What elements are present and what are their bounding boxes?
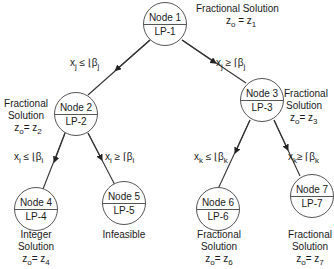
edge-2-4-constraint: xi ≤ ⌊βi — [14, 151, 43, 167]
node-3: Node 3 LP-3 — [240, 78, 284, 122]
node-3-z: zo= z3 — [290, 112, 318, 128]
node-divider — [291, 196, 333, 197]
node-7-result-1: Fractional — [285, 229, 334, 241]
node-5: Node 5 LP-5 — [102, 181, 146, 225]
node-divider — [144, 24, 186, 25]
edge-3-7-constraint: xk≥ ⌈βk — [288, 151, 319, 167]
node-1-z: zo = z1 — [226, 15, 256, 31]
node-5-result: Infeasible — [99, 229, 149, 241]
node-7-result-2: Solution — [285, 241, 334, 253]
node-divider — [103, 203, 145, 204]
node-divider — [55, 114, 97, 115]
node-divider — [15, 209, 57, 210]
node-3-result-1: Fractional — [284, 88, 328, 100]
edge-1-2-constraint: xj ≤ ⌊βj — [70, 57, 99, 73]
node-2: Node 2 LP-2 — [54, 92, 98, 136]
node-2-result-1: Fractional — [4, 98, 48, 110]
node-1: Node 1 LP-1 — [143, 2, 187, 46]
node-divider — [197, 209, 239, 210]
node-4-result-1: Integer — [14, 229, 58, 241]
node-4: Node 4 LP-4 — [14, 187, 58, 231]
node-3-result-2: Solution — [286, 100, 322, 112]
node-2-result-2: Solution — [4, 110, 48, 122]
node-4-z: zo= z4 — [14, 253, 58, 269]
edge-2-5-constraint: xi ≥ ⌈βi — [105, 151, 134, 167]
node-1-result: Fractional Solution — [196, 3, 279, 15]
node-6-result-2: Solution — [194, 241, 244, 253]
edge-3-6-constraint: xk ≤ ⌊βk — [194, 151, 228, 167]
node-4-result-2: Solution — [14, 241, 58, 253]
node-2-z: zo= z2 — [6, 122, 50, 138]
node-6-z: zo= z6 — [194, 253, 244, 269]
node-7-z: zo= z7 — [285, 253, 334, 269]
node-6-result-1: Fractional — [194, 229, 244, 241]
node-6: Node 6 LP-6 — [196, 187, 240, 231]
node-7: Node 7 LP-7 — [290, 174, 334, 218]
node-divider — [241, 100, 283, 101]
edge-1-3-constraint: xj ≥ ⌈βj — [216, 57, 245, 73]
